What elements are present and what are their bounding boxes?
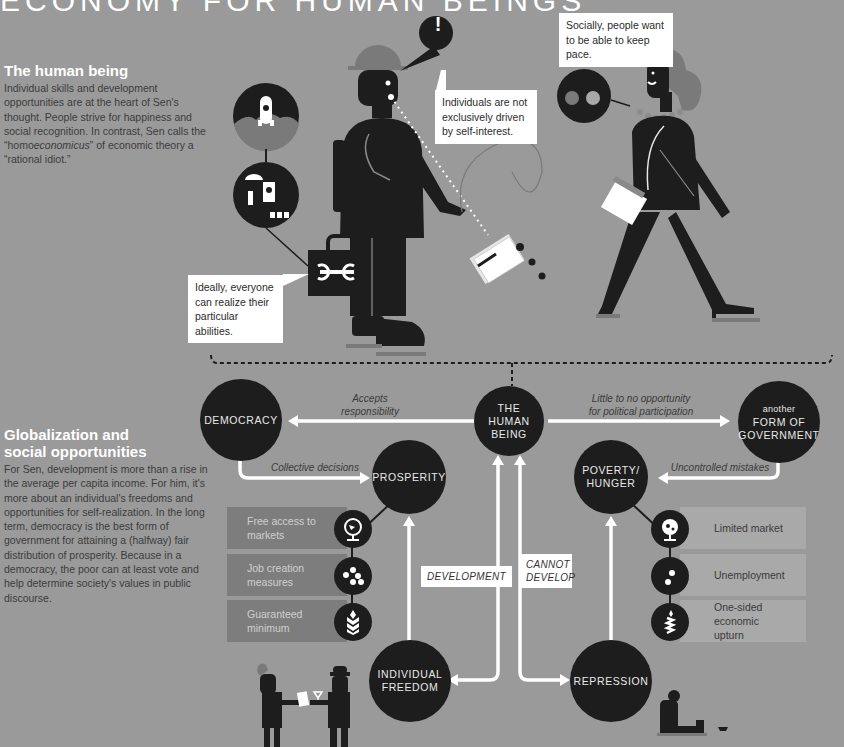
callout-keep-pace: Socially, people want to be able to keep… — [559, 13, 673, 67]
rocket-thought-icon — [233, 83, 299, 151]
factor-guaranteed-minimum: Guaranteedminimum — [227, 600, 347, 642]
node-democracy: DEMOCRACY — [200, 379, 282, 461]
beggar-figure-icon — [657, 690, 728, 736]
documents-icon — [460, 140, 545, 284]
label-development: DEVELOPMENT — [421, 566, 512, 587]
callout-abilities: Ideally, everyone can realize their part… — [188, 275, 283, 343]
callout-pointer — [436, 70, 446, 90]
wheat-icon — [333, 602, 373, 642]
job-thought-icon — [233, 162, 299, 228]
dots-icon — [650, 556, 690, 596]
edge-label-little-opportunity: Little to no opportunity for political p… — [576, 392, 706, 418]
edge-label-accepts-responsibility: Accepts responsibility — [320, 392, 420, 418]
factor-one-sided-upturn: One-sided economicupturn — [680, 600, 806, 642]
edge-label-collective-decisions: Collective decisions — [260, 461, 370, 474]
briefcase-wrench-icon — [308, 236, 364, 296]
callout-pointer — [283, 274, 309, 286]
node-human-being: THE HUMAN BEING — [474, 386, 544, 456]
node-prosperity: PROSPERITY — [372, 440, 446, 514]
globe-icon — [333, 509, 373, 549]
exclamation-icon: ! — [428, 0, 448, 48]
edge-label-uncontrolled-mistakes: Uncontrolled mistakes — [668, 461, 772, 474]
people-trading-icon — [257, 664, 350, 747]
node-individual-freedom: INDIVIDUAL FREEDOM — [369, 640, 451, 722]
callout-self-interest: Individuals are not exclusively driven b… — [435, 90, 537, 144]
node-repression: REPRESSION — [570, 640, 652, 722]
globe-icon — [650, 509, 690, 549]
node-other-government: another FORM OF GOVERNMENT — [738, 381, 820, 463]
label-cannot-develop: CANNOT DEVELOP — [520, 554, 572, 588]
factor-unemployment: Unemployment — [680, 554, 806, 596]
wheat-icon — [650, 602, 690, 642]
node-poverty-hunger: POVERTY/ HUNGER — [574, 440, 648, 514]
factor-limited-market: Limited market — [680, 507, 806, 549]
factor-free-access-markets: Free access tomarkets — [227, 507, 347, 549]
dots-icon — [333, 556, 373, 596]
factor-job-creation: Job creationmeasures — [227, 554, 347, 596]
